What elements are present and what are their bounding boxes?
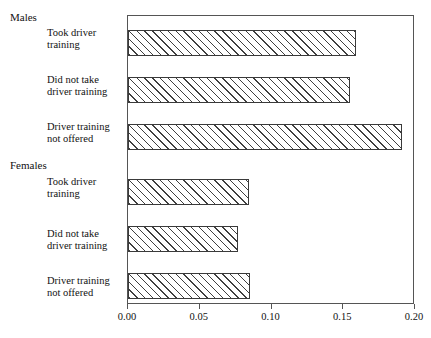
x-axis-tick-label: 0.20 bbox=[405, 311, 423, 323]
category-label-line1: Did not take bbox=[47, 74, 99, 85]
category-label-line1: Driver training bbox=[47, 275, 110, 286]
category-label-line1: Took driver bbox=[47, 27, 96, 38]
x-axis-tick bbox=[199, 304, 200, 309]
category-label-line2: driver training bbox=[47, 86, 123, 98]
x-axis-tick bbox=[271, 304, 272, 309]
bar-females-driver-training-not-offered bbox=[128, 273, 250, 299]
x-axis-tick bbox=[127, 304, 128, 309]
x-axis-tick bbox=[414, 304, 415, 309]
category-label-line2: driver training bbox=[47, 240, 123, 252]
bar-females-took-driver-training bbox=[128, 179, 249, 205]
category-label-males-did-not-take-driver-training: Did not take driver training bbox=[47, 74, 123, 97]
bar-chart: Males Females Took driver training Did n… bbox=[0, 0, 431, 338]
x-axis-tick-label: 0.15 bbox=[333, 311, 351, 323]
category-label-males-driver-training-not-offered: Driver training not offered bbox=[47, 121, 123, 144]
category-label-females-took-driver-training: Took driver training bbox=[47, 176, 123, 199]
category-label-line1: Took driver bbox=[47, 176, 96, 187]
category-label-line2: not offered bbox=[47, 133, 123, 145]
x-axis-tick-label: 0.00 bbox=[118, 311, 136, 323]
x-axis-tick-label: 0.10 bbox=[261, 311, 279, 323]
bar-males-took-driver-training bbox=[128, 30, 356, 56]
category-label-females-driver-training-not-offered: Driver training not offered bbox=[47, 275, 123, 298]
bar-males-did-not-take-driver-training bbox=[128, 77, 350, 103]
category-label-females-did-not-take-driver-training: Did not take driver training bbox=[47, 228, 123, 251]
x-axis-tick bbox=[342, 304, 343, 309]
bar-males-driver-training-not-offered bbox=[128, 124, 402, 150]
category-label-line2: not offered bbox=[47, 287, 123, 299]
group-heading-males: Males bbox=[10, 11, 37, 23]
x-axis-tick-label: 0.05 bbox=[190, 311, 208, 323]
group-heading-females: Females bbox=[10, 159, 47, 171]
category-label-line1: Driver training bbox=[47, 121, 110, 132]
plot-area bbox=[127, 15, 414, 304]
category-label-line1: Did not take bbox=[47, 228, 99, 239]
category-label-line2: training bbox=[47, 39, 123, 51]
bar-females-did-not-take-driver-training bbox=[128, 226, 238, 252]
category-label-line2: training bbox=[47, 188, 123, 200]
category-label-males-took-driver-training: Took driver training bbox=[47, 27, 123, 50]
